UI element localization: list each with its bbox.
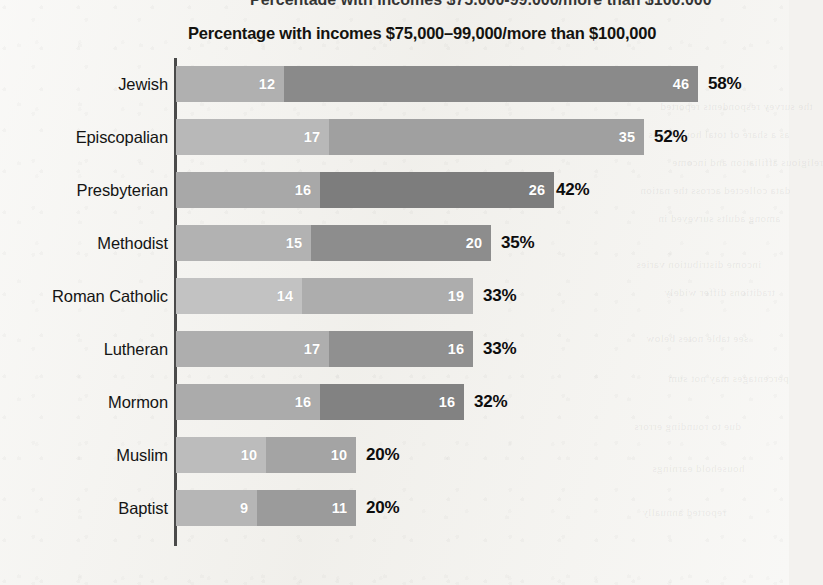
category-label: Muslim (0, 446, 168, 465)
bar-total-label: 33% (483, 286, 516, 306)
bar-segment-over-100k: 19 (302, 278, 473, 314)
segment-value-label: 12 (259, 77, 284, 92)
bar-total-label: 33% (483, 339, 516, 359)
bar-row: Episcopalian173552% (0, 119, 789, 155)
stacked-bar: 1616 (176, 384, 464, 420)
stacked-bar: 1626 (176, 172, 554, 208)
bar-segment-75k-99k: 12 (176, 66, 284, 102)
bar-segment-over-100k: 10 (266, 437, 356, 473)
bar-segment-over-100k: 16 (329, 331, 473, 367)
bar-segment-over-100k: 11 (257, 490, 356, 526)
category-label: Roman Catholic (0, 287, 168, 306)
bar-segment-75k-99k: 16 (176, 172, 320, 208)
bar-segment-75k-99k: 14 (176, 278, 302, 314)
bar-row: Lutheran171633% (0, 331, 789, 367)
category-label: Episcopalian (0, 128, 168, 147)
bar-segment-over-100k: 16 (320, 384, 464, 420)
bar-segment-75k-99k: 16 (176, 384, 320, 420)
stacked-bar: 1246 (176, 66, 698, 102)
bar-row: Roman Catholic141933% (0, 278, 789, 314)
segment-value-label: 35 (619, 130, 644, 145)
segment-value-label: 16 (439, 395, 464, 410)
segment-value-label: 15 (286, 236, 311, 251)
bar-row: Methodist152035% (0, 225, 789, 261)
bar-segment-over-100k: 46 (284, 66, 698, 102)
bar-total-label: 58% (708, 74, 741, 94)
bar-total-label: 20% (366, 445, 399, 465)
category-label: Methodist (0, 234, 168, 253)
bar-segment-over-100k: 35 (329, 119, 644, 155)
bar-segment-75k-99k: 17 (176, 119, 329, 155)
segment-value-label: 14 (277, 289, 302, 304)
category-label: Baptist (0, 499, 168, 518)
segment-value-label: 19 (448, 289, 473, 304)
bar-segment-75k-99k: 9 (176, 490, 257, 526)
segment-value-label: 17 (304, 342, 329, 357)
segment-value-label: 9 (240, 501, 257, 516)
bar-segment-75k-99k: 10 (176, 437, 266, 473)
segment-value-label: 20 (466, 236, 491, 251)
stacked-bar: 1419 (176, 278, 473, 314)
stacked-bar: 1010 (176, 437, 356, 473)
bar-row: Jewish124658% (0, 66, 789, 102)
segment-value-label: 17 (304, 130, 329, 145)
category-label: Presbyterian (0, 181, 168, 200)
bar-segment-over-100k: 26 (320, 172, 554, 208)
bar-total-label: 35% (501, 233, 534, 253)
category-label: Jewish (0, 75, 168, 94)
bar-row: Presbyterian162642% (0, 172, 789, 208)
bar-segment-over-100k: 20 (311, 225, 491, 261)
bar-total-label: 42% (556, 180, 589, 200)
segment-value-label: 10 (331, 448, 356, 463)
bar-total-label: 32% (474, 392, 507, 412)
segment-value-label: 16 (295, 183, 320, 198)
stacked-bar: 911 (176, 490, 356, 526)
segment-value-label: 11 (332, 501, 356, 516)
bar-segment-75k-99k: 15 (176, 225, 311, 261)
bar-total-label: 20% (366, 498, 399, 518)
category-label: Lutheran (0, 340, 168, 359)
segment-value-label: 16 (295, 395, 320, 410)
segment-value-label: 26 (529, 183, 554, 198)
segment-value-label: 46 (673, 77, 698, 92)
bar-row: Baptist91120% (0, 490, 789, 526)
bar-total-label: 52% (654, 127, 687, 147)
bar-segment-75k-99k: 17 (176, 331, 329, 367)
stacked-bar: 1735 (176, 119, 644, 155)
stacked-bar: 1716 (176, 331, 473, 367)
segment-value-label: 10 (241, 448, 266, 463)
segment-value-label: 16 (448, 342, 473, 357)
stacked-bar: 1520 (176, 225, 491, 261)
bar-row: Muslim101020% (0, 437, 789, 473)
category-label: Mormon (0, 393, 168, 412)
bar-row: Mormon161632% (0, 384, 789, 420)
